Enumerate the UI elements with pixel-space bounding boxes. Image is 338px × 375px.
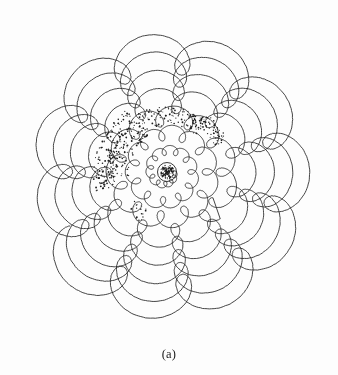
figure-caption-label: (a) — [162, 347, 176, 361]
figure-container: (a) — [0, 0, 338, 375]
figure-caption-row: (a) — [0, 344, 338, 362]
spirograph-plot — [0, 0, 338, 345]
